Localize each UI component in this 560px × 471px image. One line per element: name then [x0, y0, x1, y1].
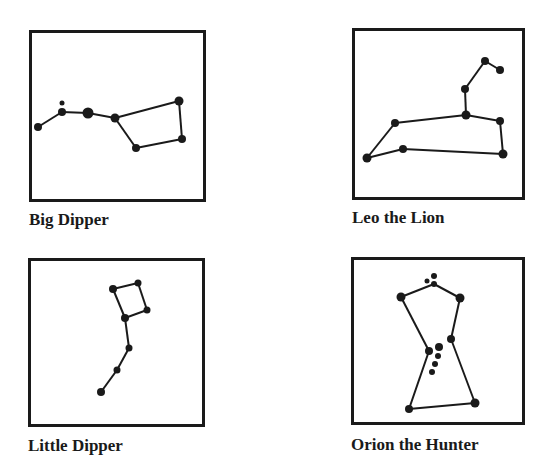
little-dipper-label: Little Dipper — [28, 437, 123, 454]
orion-the-hunter-panel — [351, 257, 525, 425]
orion-the-hunter-label: Orion the Hunter — [351, 436, 479, 453]
big-dipper-label: Big Dipper — [29, 211, 109, 228]
big-dipper-panel — [29, 30, 206, 202]
leo-the-lion-panel — [352, 28, 525, 200]
leo-the-lion-label: Leo the Lion — [352, 209, 445, 226]
little-dipper-panel — [28, 258, 205, 427]
